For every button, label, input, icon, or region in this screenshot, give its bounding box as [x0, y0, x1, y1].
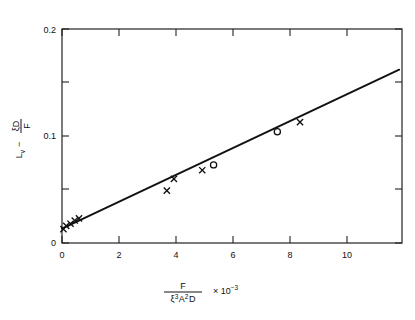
x-label-exponent: −3: [231, 284, 239, 291]
data-markers-group: [60, 119, 303, 232]
data-point-cross: [164, 187, 170, 193]
x-label-frac-denominator: ξ3A2D: [171, 293, 196, 305]
data-point-circle: [274, 129, 280, 135]
y-axis-ticks: [62, 29, 402, 243]
x-label-times-ten: × 10: [213, 286, 231, 296]
x-label-multiplier: × 10−3: [213, 284, 239, 296]
y-tick-label: 0.1: [43, 131, 56, 141]
y-label-minus: −: [14, 142, 24, 147]
y-label-D: D: [11, 120, 21, 127]
y-tick-labels: 0 0.1 0.2: [43, 25, 56, 248]
y-axis-label-text: Lv−: [14, 142, 26, 159]
y-tick-label: 0.2: [43, 25, 56, 35]
x-axis-major-ticks: [62, 29, 347, 243]
x-tick-label: 4: [173, 250, 178, 260]
linear-fit-line: [62, 70, 399, 229]
chart-svg: 0 2 4 6 8 10 0 0.1 0.2 Lv− ξD: [0, 0, 415, 320]
scatter-plot-figure: 0 2 4 6 8 10 0 0.1 0.2 Lv− ξD: [0, 0, 415, 320]
x-tick-label: 2: [116, 250, 121, 260]
data-point-circle: [210, 162, 216, 168]
y-label-frac-numerator: ξD: [11, 120, 21, 131]
y-label-L-sub: v: [19, 149, 26, 153]
x-axis-label: F ξ3A2D × 10−3: [164, 281, 239, 304]
x-tick-label: 10: [342, 250, 352, 260]
axes-border: [62, 29, 402, 243]
data-point-cross: [297, 119, 303, 125]
x-label-fraction: F ξ3A2D: [164, 281, 202, 304]
y-label-fraction: ξD F: [11, 119, 33, 133]
x-tick-label: 8: [287, 250, 292, 260]
y-label-frac-denominator: F: [22, 123, 32, 129]
y-axis-label: Lv− ξD F: [11, 119, 33, 158]
x-tick-label: 0: [59, 250, 64, 260]
x-label-D: D: [189, 294, 196, 304]
x-tick-labels: 0 2 4 6 8 10: [59, 250, 352, 260]
x-tick-label: 6: [230, 250, 235, 260]
plot-frame: [62, 29, 402, 243]
y-tick-label: 0: [51, 238, 56, 248]
fit-line-group: [62, 70, 399, 229]
data-point-cross: [199, 167, 205, 173]
x-label-frac-numerator: F: [180, 281, 186, 291]
